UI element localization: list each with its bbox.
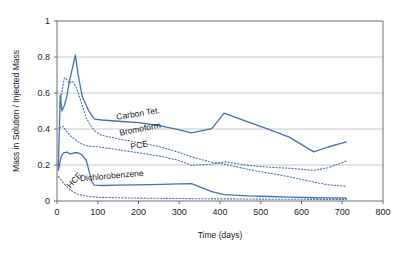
x-axis-title: Time (days) bbox=[198, 230, 243, 240]
y-tick-label: 0 bbox=[45, 196, 50, 206]
x-tick-label: 400 bbox=[212, 207, 227, 217]
y-tick-label: 0.2 bbox=[37, 160, 50, 170]
x-tick-label: 700 bbox=[335, 207, 350, 217]
x-tick-label: 200 bbox=[131, 207, 146, 217]
x-tick-label: 100 bbox=[90, 207, 105, 217]
y-tick-label: 0.8 bbox=[37, 52, 50, 62]
y-tick-label: 1 bbox=[45, 16, 50, 26]
x-tick-label: 600 bbox=[294, 207, 309, 217]
y-tick-label: 0.4 bbox=[37, 124, 50, 134]
x-tick-label: 0 bbox=[54, 207, 59, 217]
chart-container: 00.20.40.60.81 0100200300400500600700800… bbox=[0, 0, 401, 255]
x-tick-label: 500 bbox=[253, 207, 268, 217]
x-tick-label: 300 bbox=[172, 207, 187, 217]
y-axis-title: Mass in Solution / Injected Mass bbox=[11, 50, 21, 172]
x-tick-label: 800 bbox=[375, 207, 390, 217]
y-tick-label: 0.6 bbox=[37, 88, 50, 98]
line-chart: 00.20.40.60.81 0100200300400500600700800… bbox=[0, 0, 401, 255]
